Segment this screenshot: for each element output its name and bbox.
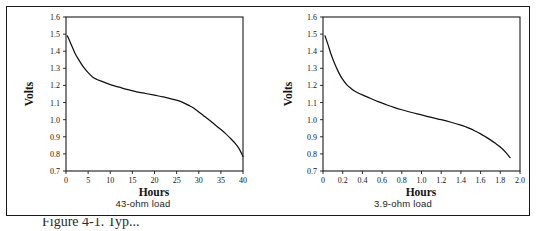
panel-caption-43-ohm: 43-ohm load (17, 198, 269, 209)
chart-svg-43-ohm: 0510152025303540 0.70.80.91.01.11.21.31.… (17, 7, 269, 197)
x-axis-ticks-3-9-ohm: 00.20.40.60.81.01.21.41.61.82.0 (321, 171, 525, 185)
y-tick-label: 0.7 (307, 167, 317, 176)
y-axis-title-3-9-ohm: Volts (282, 81, 294, 106)
y-tick-label: 1.3 (307, 64, 317, 73)
x-axis-title-43-ohm: Hours (139, 186, 170, 197)
plot-border-3-9-ohm (323, 17, 520, 171)
x-tick-label: 0.2 (338, 176, 348, 185)
y-axis-ticks-3-9-ohm: 0.70.80.91.01.11.21.31.41.51.6 (307, 13, 323, 176)
x-tick-label: 1.8 (495, 176, 505, 185)
chart-panel-43-ohm: 0510152025303540 0.70.80.91.01.11.21.31.… (17, 7, 269, 217)
panel-caption-3-9-ohm: 3.9-ohm load (279, 198, 527, 209)
y-tick-label: 0.9 (307, 133, 317, 142)
y-tick-label: 1.6 (307, 13, 317, 22)
x-tick-label: 40 (239, 176, 247, 185)
x-tick-label: 1.4 (456, 176, 466, 185)
x-tick-label: 15 (128, 176, 136, 185)
y-tick-label: 1.0 (307, 116, 317, 125)
x-tick-label: 1.0 (417, 176, 427, 185)
y-tick-label: 1.3 (50, 64, 60, 73)
y-tick-label: 1.1 (50, 99, 60, 108)
x-tick-label: 0.4 (357, 176, 367, 185)
y-tick-label: 1.5 (50, 30, 60, 39)
y-tick-label: 1.4 (307, 47, 317, 56)
y-tick-label: 0.8 (50, 150, 60, 159)
y-tick-label: 1.6 (50, 13, 60, 22)
plot-area-3-9-ohm: 00.20.40.60.81.01.21.41.61.82.0 0.70.80.… (307, 13, 525, 185)
figure-root: 0510152025303540 0.70.80.91.01.11.21.31.… (0, 0, 539, 231)
y-tick-label: 0.9 (50, 133, 60, 142)
x-tick-label: 0.8 (397, 176, 407, 185)
x-tick-label: 10 (106, 176, 114, 185)
x-tick-label: 25 (173, 176, 181, 185)
x-tick-label: 35 (217, 176, 225, 185)
chart-svg-3-9-ohm: 00.20.40.60.81.01.21.41.61.82.0 0.70.80.… (279, 7, 527, 197)
x-tick-label: 1.2 (436, 176, 446, 185)
figure-caption: Figure 4-1. Typ... (42, 218, 140, 230)
plot-border-43-ohm (66, 17, 243, 171)
x-axis-title-3-9-ohm: Hours (406, 186, 437, 197)
x-tick-label: 0 (64, 176, 68, 185)
x-tick-label: 20 (151, 176, 159, 185)
x-axis-ticks-43-ohm: 0510152025303540 (64, 171, 247, 185)
y-tick-label: 1.0 (50, 116, 60, 125)
y-tick-label: 1.4 (50, 47, 60, 56)
chart-panel-3-9-ohm: 00.20.40.60.81.01.21.41.61.82.0 0.70.80.… (279, 7, 527, 217)
x-tick-label: 1.6 (476, 176, 486, 185)
y-axis-title-43-ohm: Volts (23, 81, 35, 106)
y-axis-ticks-43-ohm: 0.70.80.91.01.11.21.31.41.51.6 (50, 13, 66, 176)
figure-outer-frame: 0510152025303540 0.70.80.91.01.11.21.31.… (6, 6, 530, 216)
x-tick-label: 0.6 (377, 176, 387, 185)
x-tick-label: 0 (321, 176, 325, 185)
x-tick-label: 5 (86, 176, 90, 185)
y-tick-label: 1.2 (50, 81, 60, 90)
x-tick-label: 2.0 (515, 176, 525, 185)
y-tick-label: 0.8 (307, 150, 317, 159)
plot-area-43-ohm: 0510152025303540 0.70.80.91.01.11.21.31.… (50, 13, 247, 185)
x-tick-label: 30 (195, 176, 203, 185)
y-tick-label: 1.1 (307, 99, 317, 108)
y-tick-label: 1.5 (307, 30, 317, 39)
y-tick-label: 0.7 (50, 167, 60, 176)
figure-caption-strip: Figure 4-1. Typ... (0, 218, 539, 231)
data-curve-3-9-ohm (325, 36, 510, 158)
data-curve-43-ohm (67, 36, 243, 157)
y-tick-label: 1.2 (307, 81, 317, 90)
